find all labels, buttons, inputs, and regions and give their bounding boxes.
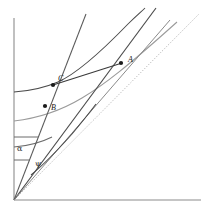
dotted-diagonal-ray — [14, 14, 199, 200]
point-dot-A — [119, 61, 123, 65]
point-label-A: A — [127, 55, 133, 64]
point-dot-B — [43, 104, 47, 108]
steep-ray-through-B-C — [14, 14, 86, 200]
psi-label: ψ — [35, 159, 41, 168]
axes-group — [14, 18, 201, 200]
point-label-B: B — [51, 103, 56, 112]
point-label-C: C — [58, 74, 64, 83]
point-dot-C — [51, 83, 55, 87]
figure-root: A C B α ψ — [0, 0, 211, 214]
geometric-diagram: A C B α ψ — [0, 0, 211, 214]
alpha-label: α — [17, 144, 23, 153]
chord-C-to-A — [53, 63, 122, 85]
